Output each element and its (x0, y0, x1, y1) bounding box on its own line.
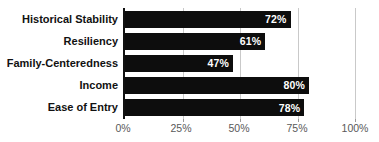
gridline (355, 8, 356, 119)
bar-row: Income80% (125, 75, 355, 97)
bar: 61% (125, 33, 265, 50)
bar: 47% (125, 55, 233, 72)
bar-value-label: 72% (265, 14, 291, 25)
plot-rows: Historical Stability72%Resiliency61%Fami… (125, 8, 355, 119)
x-axis: 0%25%50%75%100% (123, 123, 355, 137)
x-tick-label: 75% (286, 123, 307, 134)
x-tick-label: 50% (228, 123, 249, 134)
x-tick-label: 100% (342, 123, 369, 134)
category-label: Resiliency (64, 36, 118, 47)
bar-row: Family-Centeredness47% (125, 52, 355, 74)
bar-value-label: 61% (240, 36, 266, 47)
category-label: Income (79, 80, 118, 91)
category-label: Family-Centeredness (7, 58, 118, 69)
horizontal-bar-chart: Historical Stability72%Resiliency61%Fami… (0, 0, 379, 142)
x-tick-label: 0% (115, 123, 130, 134)
bar: 72% (125, 11, 291, 28)
bar: 80% (125, 77, 309, 94)
bar-row: Ease of Entry78% (125, 97, 355, 119)
bar-value-label: 78% (279, 103, 305, 114)
category-label: Ease of Entry (48, 102, 118, 113)
bar-row: Historical Stability72% (125, 8, 355, 30)
x-tick-label: 25% (170, 123, 191, 134)
plot-area: Historical Stability72%Resiliency61%Fami… (123, 8, 355, 119)
bar-value-label: 80% (283, 80, 309, 91)
bar: 78% (125, 99, 304, 116)
category-label: Historical Stability (22, 14, 118, 25)
bar-row: Resiliency61% (125, 30, 355, 52)
bar-value-label: 47% (207, 58, 233, 69)
